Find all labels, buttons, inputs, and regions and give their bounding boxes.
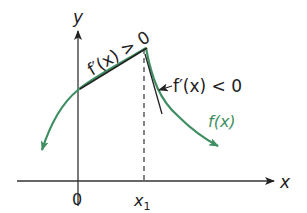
curve-label: f(x)	[208, 112, 236, 131]
negative-slope-label: f′(x) < 0	[173, 76, 242, 96]
y-axis-label: y	[72, 7, 84, 27]
pointer-arrow	[159, 86, 172, 90]
x1-label: x1	[133, 191, 150, 213]
tangent-negative-slope	[145, 54, 162, 114]
positive-slope-label: f′(x) > 0	[84, 27, 153, 80]
x-axis-label: x	[279, 172, 291, 192]
derivative-diagram: y x 0 x1 f′(x) > 0 f′(x) < 0 f(x)	[0, 0, 307, 213]
origin-label: 0	[72, 190, 82, 209]
